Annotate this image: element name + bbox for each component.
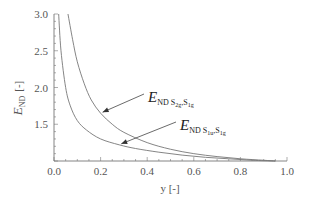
y-tick-label: 1.5 [34, 118, 48, 130]
series-label-part: ND S [189, 126, 207, 135]
annotation-arrowhead-icon [121, 139, 127, 144]
x-tick-label: 0.0 [47, 165, 61, 177]
y-axis-title-sub: ND [18, 96, 27, 108]
x-tick-label: 0.8 [234, 165, 248, 177]
y-axis-title-main: E [10, 107, 25, 116]
x-tick-label: 0.6 [187, 165, 201, 177]
y-tick-label: 2.0 [34, 82, 48, 94]
series-line-1 [68, 14, 275, 161]
y-axis-title-unit: [-] [12, 81, 24, 92]
ticks [54, 14, 287, 161]
series-line-2 [59, 14, 276, 161]
series-label-part: ND S [157, 98, 175, 107]
x-tick-label: 1.0 [280, 165, 294, 177]
x-axis-title: y [-] [160, 182, 179, 194]
y-tick-label: 3.0 [34, 8, 48, 20]
y-tick-label: 2.5 [34, 45, 48, 57]
annotation-arrow-line [121, 122, 176, 144]
series-label-part: 1g [220, 130, 226, 136]
series-label-part: E [179, 117, 189, 133]
annotations: END S2g,S1gEND S1u,S1g [103, 89, 226, 144]
svg-text:END[-]: END[-] [10, 81, 27, 117]
series-label-part: E [147, 89, 157, 105]
axes [54, 14, 287, 161]
curves [59, 14, 276, 161]
tick-labels: 0.00.20.40.60.81.01.52.02.53.0 [34, 8, 294, 177]
series-label-1: END S2g,S1g [147, 89, 194, 108]
series-label-2: END S1u,S1g [179, 117, 226, 136]
x-tick-label: 0.4 [140, 165, 154, 177]
y-axis-title: END[-] [10, 81, 27, 117]
annotation-arrow-line [103, 94, 144, 112]
x-tick-label: 0.2 [94, 165, 108, 177]
series-label-part: 1g [188, 102, 194, 108]
chart: 0.00.20.40.60.81.01.52.02.53.0 END S2g,S… [0, 0, 309, 203]
